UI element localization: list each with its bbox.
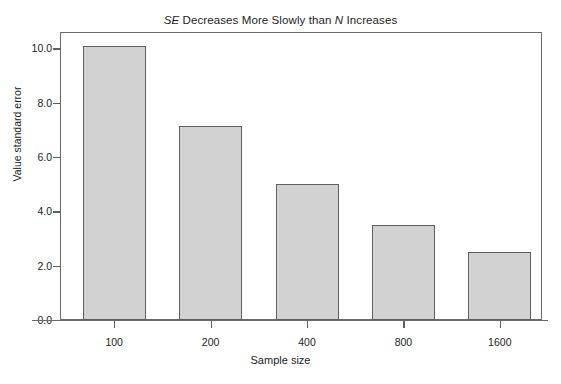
x-tick-200	[211, 321, 212, 328]
x-axis-line	[32, 320, 548, 321]
bar-100	[83, 46, 146, 320]
x-tick-label-400: 400	[272, 336, 342, 348]
chart-title-italic-se: SE	[164, 14, 180, 26]
x-tick-label-1600: 1600	[465, 336, 535, 348]
chart-title-italic-n: N	[335, 14, 343, 26]
plot-area	[60, 32, 542, 320]
x-tick-1600	[500, 321, 501, 328]
y-tick-8.0	[53, 103, 60, 104]
x-tick-400	[307, 321, 308, 328]
bar-chart: SE Decreases More Slowly than N Increase…	[0, 0, 561, 384]
x-tick-label-100: 100	[79, 336, 149, 348]
x-axis-title: Sample size	[0, 354, 561, 366]
y-tick-4.0	[53, 211, 60, 212]
x-tick-800	[403, 321, 404, 328]
x-tick-label-200: 200	[176, 336, 246, 348]
y-axis-line	[60, 32, 61, 321]
chart-title: SE Decreases More Slowly than N Increase…	[0, 14, 561, 26]
chart-title-text-1: Decreases More Slowly than	[179, 14, 335, 26]
x-tick-label-800: 800	[368, 336, 438, 348]
bar-800	[372, 225, 435, 320]
x-tick-100	[114, 321, 115, 328]
y-tick-label-2.0: 2.0	[6, 260, 52, 272]
y-tick-2.0	[53, 266, 60, 267]
bar-200	[179, 126, 242, 320]
y-tick-6.0	[53, 157, 60, 158]
bar-1600	[468, 252, 531, 320]
y-axis-title: Value standard error	[11, 34, 23, 234]
chart-title-text-2: Increases	[343, 14, 397, 26]
y-tick-10.0	[53, 48, 60, 49]
bar-400	[276, 184, 339, 320]
